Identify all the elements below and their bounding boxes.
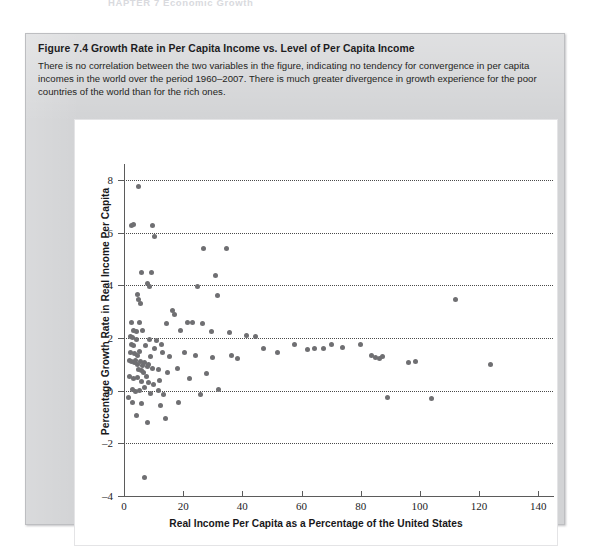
data-point xyxy=(147,337,152,342)
scatter-plot: –4–202468 020406080100120140 Percentage … xyxy=(75,120,557,545)
x-tick-120 xyxy=(479,491,480,497)
data-point xyxy=(413,359,418,364)
data-point xyxy=(305,347,310,352)
data-point xyxy=(340,345,345,350)
gridline-y-4 xyxy=(124,285,553,286)
data-point xyxy=(429,396,434,401)
x-tick-140 xyxy=(538,491,539,497)
data-point xyxy=(165,370,170,375)
data-point xyxy=(146,380,151,385)
data-point xyxy=(178,328,183,333)
data-point xyxy=(154,338,159,343)
x-tick-label-20: 20 xyxy=(166,500,200,512)
data-point xyxy=(130,400,135,405)
data-point xyxy=(139,270,144,275)
data-point xyxy=(134,413,139,418)
data-point xyxy=(215,293,220,298)
data-point xyxy=(213,273,218,278)
x-tick-label-60: 60 xyxy=(285,500,319,512)
data-point xyxy=(164,321,169,326)
x-tick-100 xyxy=(420,491,421,497)
data-point xyxy=(312,346,317,351)
data-point xyxy=(126,395,131,400)
data-point xyxy=(182,350,187,355)
data-point xyxy=(201,246,206,251)
data-point xyxy=(152,346,157,351)
data-point xyxy=(216,387,221,392)
data-point xyxy=(329,342,334,347)
data-point xyxy=(131,222,136,227)
x-tick-40 xyxy=(242,491,243,497)
y-axis-title: Percentage Growth Rate in Real Income Pe… xyxy=(100,162,111,462)
gridline-y-6 xyxy=(124,233,553,234)
figure-panel: Figure 7.4 Growth Rate in Per Capita Inc… xyxy=(25,33,565,525)
y-tick-8 xyxy=(118,180,124,181)
x-tick-60 xyxy=(302,491,303,497)
data-point xyxy=(488,362,493,367)
data-point xyxy=(275,350,280,355)
data-point xyxy=(145,420,150,425)
data-point xyxy=(152,234,157,239)
data-point xyxy=(159,342,164,347)
figure-description: There is no correlation between the two … xyxy=(38,59,546,99)
y-tick--2 xyxy=(118,443,124,444)
gridline-y--2 xyxy=(124,443,553,444)
data-point xyxy=(210,355,215,360)
chart-sheet: –4–202468 020406080100120140 Percentage … xyxy=(74,119,558,546)
y-tick--4 xyxy=(118,496,124,497)
data-point xyxy=(142,475,147,480)
running-head: HAPTER 7 Economic Growth xyxy=(108,0,368,8)
gridline-y-2 xyxy=(124,338,553,339)
data-point xyxy=(385,395,390,400)
data-point xyxy=(172,312,177,317)
data-point xyxy=(139,401,144,406)
data-point xyxy=(131,343,136,348)
data-point xyxy=(137,320,142,325)
data-point xyxy=(176,400,181,405)
data-point xyxy=(190,320,195,325)
data-point xyxy=(198,392,203,397)
figure-label: Figure 7.4 xyxy=(38,43,88,54)
data-point xyxy=(147,284,152,289)
data-point xyxy=(161,392,166,397)
data-point xyxy=(144,374,149,379)
data-point xyxy=(380,354,385,359)
figure-title-line: Figure 7.4 Growth Rate in Per Capita Inc… xyxy=(38,42,546,56)
x-tick-80 xyxy=(361,491,362,497)
data-point xyxy=(167,354,172,359)
data-point xyxy=(321,346,326,351)
x-tick-label-0: 0 xyxy=(107,500,141,512)
data-point xyxy=(204,371,209,376)
y-tick-0 xyxy=(118,391,124,392)
data-point xyxy=(150,223,155,228)
data-point xyxy=(151,382,156,387)
x-tick-label-100: 100 xyxy=(403,500,437,512)
x-tick-20 xyxy=(183,491,184,497)
data-point xyxy=(200,321,205,326)
data-point xyxy=(149,270,154,275)
data-point xyxy=(187,376,192,381)
x-tick-label-120: 120 xyxy=(462,500,496,512)
figure-title: Growth Rate in Per Capita Income vs. Lev… xyxy=(91,43,415,54)
data-point xyxy=(134,337,139,342)
data-point xyxy=(158,403,163,408)
data-point xyxy=(193,353,198,358)
data-point xyxy=(138,301,143,306)
data-point xyxy=(175,366,180,371)
gridline-y-0 xyxy=(124,391,553,392)
data-point xyxy=(136,184,141,189)
data-point xyxy=(134,329,139,334)
data-point xyxy=(148,354,153,359)
data-point xyxy=(292,342,297,347)
data-point xyxy=(156,367,161,372)
y-axis-line xyxy=(124,164,125,497)
data-point xyxy=(235,356,240,361)
data-point xyxy=(209,329,214,334)
data-point xyxy=(135,292,140,297)
data-point xyxy=(453,297,458,302)
figure-caption: Figure 7.4 Growth Rate in Per Capita Inc… xyxy=(38,42,546,99)
data-point xyxy=(160,350,165,355)
data-point xyxy=(406,360,411,365)
data-point xyxy=(224,246,229,251)
x-tick-label-80: 80 xyxy=(344,500,378,512)
